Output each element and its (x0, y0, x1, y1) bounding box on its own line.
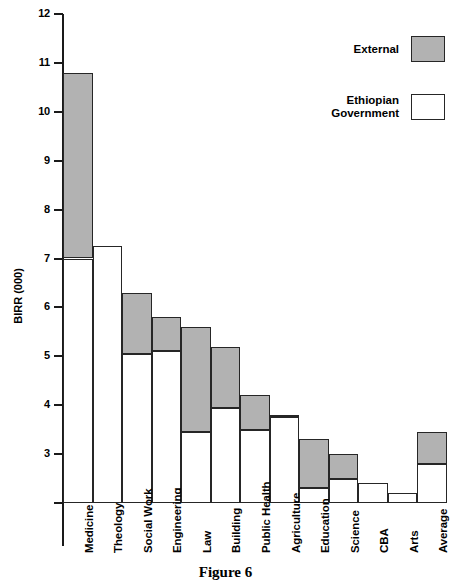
bar-segment-ethiopian-government[interactable] (152, 351, 182, 503)
bar-segment-ethiopian-government[interactable] (388, 493, 418, 503)
bar-segment-external[interactable] (240, 395, 270, 429)
bar-group[interactable] (240, 0, 270, 503)
bar-group[interactable] (299, 0, 329, 503)
bar-segment-external[interactable] (122, 293, 152, 354)
bar-segment-ethiopian-government[interactable] (63, 259, 93, 504)
bar-segment-external[interactable] (63, 73, 93, 259)
figure-6-chart: 1211109876543 BIRR (000) MedicineTheolog… (0, 0, 451, 588)
legend-swatch-ethiopian-government (411, 94, 445, 120)
bar-segment-ethiopian-government[interactable] (211, 408, 241, 503)
x-axis-label-average: Average (437, 509, 449, 553)
bar-group[interactable] (211, 0, 241, 503)
bar-group[interactable] (152, 0, 182, 503)
bar-segment-external[interactable] (181, 327, 211, 432)
legend-label-ethiopian-government: Ethiopian Government (331, 94, 399, 120)
x-axis-label-medicine: Medicine (83, 505, 95, 553)
x-axis-label-law: Law (201, 531, 213, 553)
legend-entry-external: External (320, 36, 445, 62)
bar-segment-external[interactable] (152, 317, 182, 351)
bar-segment-external[interactable] (270, 415, 300, 417)
bar-group[interactable] (181, 0, 211, 503)
legend-swatch-external (411, 36, 445, 62)
bar-segment-ethiopian-government[interactable] (329, 479, 359, 503)
x-axis-label-cba: CBA (378, 528, 390, 553)
figure-caption: Figure 6 (0, 564, 451, 581)
bars-layer: MedicineTheologySocial WorkEngineeringLa… (0, 0, 451, 560)
x-axis-label-arts: Arts (408, 530, 420, 553)
bar-segment-external[interactable] (299, 439, 329, 488)
bar-segment-external[interactable] (417, 432, 447, 464)
bar-group[interactable] (93, 0, 123, 503)
bar-segment-ethiopian-government[interactable] (270, 417, 300, 503)
bar-group[interactable] (63, 0, 93, 503)
bar-segment-ethiopian-government[interactable] (181, 432, 211, 503)
bar-group[interactable] (417, 0, 447, 503)
bar-group[interactable] (388, 0, 418, 503)
bar-group[interactable] (122, 0, 152, 503)
bar-segment-ethiopian-government[interactable] (358, 483, 388, 503)
x-axis-label-education: Education (319, 498, 331, 553)
bar-group[interactable] (329, 0, 359, 503)
plot-area: 1211109876543 BIRR (000) MedicineTheolog… (0, 0, 451, 560)
x-axis-label-building: Building (230, 508, 242, 553)
bar-group[interactable] (358, 0, 388, 503)
bar-group[interactable] (270, 0, 300, 503)
legend-label-external: External (354, 43, 399, 56)
legend-entry-ethiopian-government: Ethiopian Government (320, 94, 445, 120)
x-axis-label-science: Science (349, 510, 361, 553)
x-axis-label-theology: Theology (112, 503, 124, 553)
bar-segment-ethiopian-government[interactable] (417, 464, 447, 503)
bar-segment-ethiopian-government[interactable] (93, 246, 123, 503)
bar-segment-external[interactable] (211, 347, 241, 408)
bar-segment-external[interactable] (329, 454, 359, 478)
bar-segment-ethiopian-government[interactable] (122, 354, 152, 503)
